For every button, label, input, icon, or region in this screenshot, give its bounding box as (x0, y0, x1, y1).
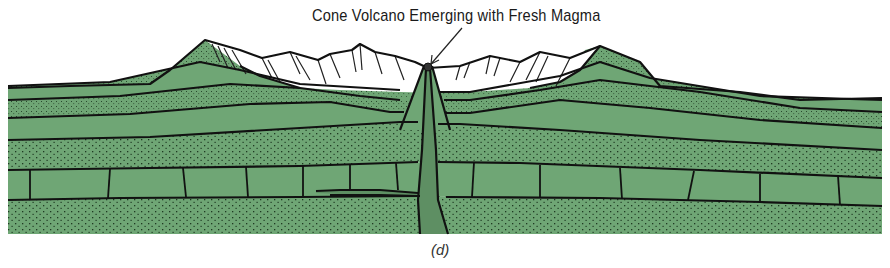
panel-label: (d) (431, 241, 449, 258)
geologic-cross-section (0, 0, 890, 268)
volcano-crater (424, 63, 432, 71)
annotation-arrow-icon (431, 28, 462, 64)
annotation-label: Cone Volcano Emerging with Fresh Magma (312, 6, 601, 26)
